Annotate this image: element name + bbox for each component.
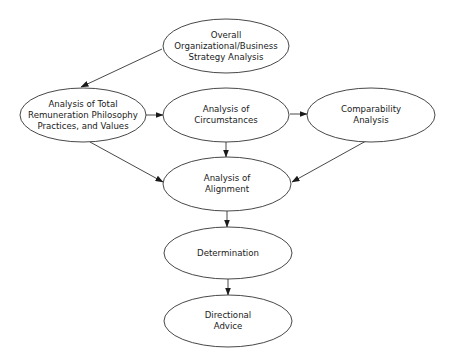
node-ellipse-strategy xyxy=(163,19,289,73)
node-ellipse-comparability xyxy=(307,88,435,142)
arrow-strategy-to-total_remuneration xyxy=(81,49,162,87)
arrow-comparability-to-alignment xyxy=(292,141,366,182)
node-ellipse-circumstances xyxy=(163,88,289,142)
nodes-layer xyxy=(20,19,435,347)
flowchart-diagram: Overall Organizational/Business Strategy… xyxy=(0,0,456,363)
node-ellipse-directional-advice xyxy=(164,295,292,347)
diagram-canvas xyxy=(0,0,456,363)
node-ellipse-determination xyxy=(164,227,292,279)
arrow-total_remuneration-to-alignment xyxy=(90,142,163,182)
node-ellipse-alignment xyxy=(163,157,291,211)
node-ellipse-total-remuneration xyxy=(20,88,146,142)
